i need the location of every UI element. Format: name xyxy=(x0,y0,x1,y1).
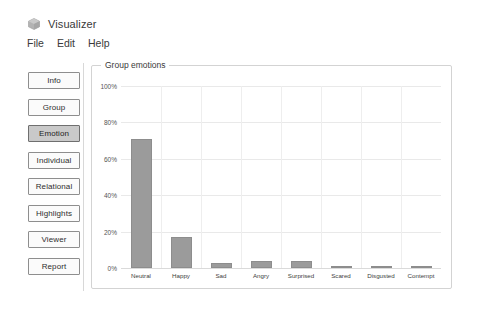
y-axis-tick-label: 80% xyxy=(104,119,117,126)
bar-happy[interactable] xyxy=(171,237,192,268)
app-header: Visualizer xyxy=(27,16,97,32)
sidebar-item-relational[interactable]: Relational xyxy=(28,178,80,195)
sidebar-separator xyxy=(83,63,84,291)
chart-panel-title: Group emotions xyxy=(101,60,169,70)
x-axis-tick-label: Contempt xyxy=(408,272,435,279)
y-axis-tick-label: 40% xyxy=(104,192,117,199)
bar-slot: Contempt xyxy=(401,86,441,268)
sidebar-item-label: Viewer xyxy=(42,235,67,244)
x-axis-tick-label: Disgusted xyxy=(367,272,395,279)
x-axis-tick-label: Scared xyxy=(331,272,351,279)
x-axis-tick-label: Surprised xyxy=(288,272,314,279)
sidebar-item-individual[interactable]: Individual xyxy=(28,152,80,169)
sidebar-item-group[interactable]: Group xyxy=(28,99,80,116)
x-axis-tick-label: Neutral xyxy=(131,272,151,279)
sidebar-item-label: Highlights xyxy=(36,209,72,218)
bar-contempt[interactable] xyxy=(411,266,432,268)
y-axis-tick-label: 20% xyxy=(104,228,117,235)
gridline-horizontal xyxy=(121,268,441,269)
bar-surprised[interactable] xyxy=(291,261,312,268)
bar-sad[interactable] xyxy=(211,263,232,268)
cube-icon xyxy=(27,17,41,31)
sidebar-item-label: Relational xyxy=(36,182,73,191)
sidebar-item-report[interactable]: Report xyxy=(28,258,80,275)
sidebar-item-label: Emotion xyxy=(39,129,69,138)
bar-slot: Happy xyxy=(161,86,201,268)
bar-slot: Sad xyxy=(201,86,241,268)
sidebar-item-label: Individual xyxy=(37,156,72,165)
bar-disgusted[interactable] xyxy=(371,266,392,268)
sidebar-item-label: Report xyxy=(42,262,67,271)
sidebar-item-label: Info xyxy=(47,76,61,85)
y-axis-tick-label: 0% xyxy=(108,265,117,272)
x-axis-tick-label: Angry xyxy=(253,272,269,279)
menu-item-edit[interactable]: Edit xyxy=(57,37,75,49)
bar-neutral[interactable] xyxy=(131,139,152,268)
bar-slot: Surprised xyxy=(281,86,321,268)
bar-angry[interactable] xyxy=(251,261,272,268)
sidebar: Info Group Emotion Individual Relational… xyxy=(28,72,80,275)
menu-item-file[interactable]: File xyxy=(27,37,44,49)
bar-slot: Angry xyxy=(241,86,281,268)
menu-bar: File Edit Help xyxy=(27,36,110,50)
sidebar-item-highlights[interactable]: Highlights xyxy=(28,205,80,222)
bar-slot: Disgusted xyxy=(361,86,401,268)
sidebar-item-emotion[interactable]: Emotion xyxy=(28,125,80,142)
y-axis-tick-label: 100% xyxy=(100,83,117,90)
bar-slot: Scared xyxy=(321,86,361,268)
y-axis-tick-label: 60% xyxy=(104,155,117,162)
bar-slot: Neutral xyxy=(121,86,161,268)
x-axis-tick-label: Sad xyxy=(215,272,226,279)
sidebar-item-viewer[interactable]: Viewer xyxy=(28,231,80,248)
bar-scared[interactable] xyxy=(331,266,352,268)
chart-panel: Group emotions 0%20%40%60%80%100% Neutra… xyxy=(91,65,452,289)
sidebar-item-label: Group xyxy=(43,103,66,112)
app-title: Visualizer xyxy=(48,18,97,30)
sidebar-item-info[interactable]: Info xyxy=(28,72,80,89)
menu-item-help[interactable]: Help xyxy=(88,37,110,49)
x-axis-tick-label: Happy xyxy=(172,272,190,279)
bar-chart-plot: 0%20%40%60%80%100% NeutralHappySadAngryS… xyxy=(121,86,441,268)
bars-layer: NeutralHappySadAngrySurprisedScaredDisgu… xyxy=(121,86,441,268)
